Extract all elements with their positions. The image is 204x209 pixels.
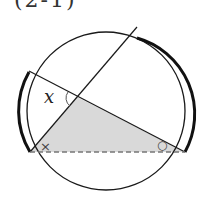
angle-mark-circle: ○ (157, 138, 167, 152)
angle-mark-cross: × (40, 139, 51, 154)
angle-x-label: x (44, 86, 54, 107)
thick-arc-left (19, 72, 30, 152)
angle-x-arc (66, 92, 70, 106)
circle-diagram (0, 0, 204, 209)
